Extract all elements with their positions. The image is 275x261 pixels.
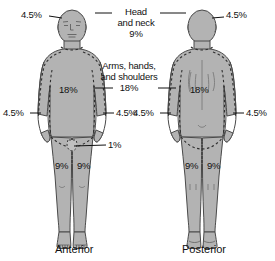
posterior-leg-left	[181, 137, 202, 232]
posterior-head	[188, 10, 216, 44]
anterior-trunk-percent: 18%	[59, 84, 77, 95]
callout-arms: Arms, hands, and shoulders 18%	[93, 60, 165, 93]
anterior-arm-left-percent: 4.5%	[3, 107, 24, 118]
leader-anterior-head	[49, 16, 62, 18]
body-figures-svg	[0, 0, 275, 261]
anterior-caption: Anterior	[55, 243, 94, 255]
posterior-arm-left-percent: 4.5%	[133, 107, 154, 118]
anterior-leg-right-percent: 9%	[77, 160, 90, 171]
callout-arms-line1: Arms, hands,	[93, 60, 165, 71]
anterior-leg-right	[73, 137, 94, 232]
anterior-figure	[30, 10, 114, 249]
callout-arms-line2: and shoulders	[93, 71, 165, 82]
rule-of-nines-diagram: Head and neck 9% Arms, hands, and should…	[0, 0, 275, 261]
posterior-hand-left	[171, 130, 180, 142]
callout-arms-line3: 18%	[93, 82, 165, 93]
posterior-head-percent: 4.5%	[226, 9, 247, 20]
posterior-arm-right-percent: 4.5%	[246, 107, 267, 118]
anterior-leg-left	[51, 137, 72, 232]
posterior-figure	[95, 10, 244, 249]
callout-head-line3: 9%	[112, 28, 160, 39]
posterior-hand-right	[224, 130, 233, 142]
callout-head-line1: Head	[112, 6, 160, 17]
posterior-trunk-percent: 18%	[190, 84, 208, 95]
anterior-head	[58, 10, 86, 44]
callout-head-and-neck: Head and neck 9%	[112, 6, 160, 39]
anterior-hand-left	[41, 130, 50, 142]
callout-head-line2: and neck	[112, 17, 160, 28]
anterior-genitalia-percent: 1%	[108, 139, 121, 150]
anterior-leg-left-percent: 9%	[55, 160, 68, 171]
anterior-head-percent: 4.5%	[21, 9, 42, 20]
posterior-caption: Posterior	[182, 243, 226, 255]
posterior-leg-right	[203, 137, 224, 232]
posterior-leg-left-percent: 9%	[185, 160, 198, 171]
anterior-hand-right	[94, 130, 103, 142]
posterior-leg-right-percent: 9%	[207, 160, 220, 171]
